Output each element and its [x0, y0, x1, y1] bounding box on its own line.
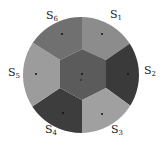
- dot-s5: [35, 73, 37, 75]
- dot-s6: [61, 33, 63, 35]
- label-s6: S6: [46, 9, 59, 23]
- dot-center-2: [80, 79, 82, 81]
- label-s2: S2: [144, 64, 156, 78]
- dot-s4: [62, 112, 64, 114]
- label-s5: S5: [8, 66, 20, 80]
- dot-s3: [101, 113, 103, 115]
- dot-s1: [101, 33, 103, 35]
- dot-center: [81, 73, 83, 75]
- sector-diagram: S6 S1 S2 S3 S4 S5: [0, 0, 161, 145]
- label-s3: S3: [111, 123, 123, 137]
- dot-s2: [127, 73, 129, 75]
- label-s1: S1: [110, 8, 122, 22]
